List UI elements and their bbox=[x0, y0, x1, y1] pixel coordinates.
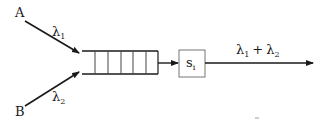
queue-buffer bbox=[82, 51, 158, 74]
queueing-diagram: A λ1 B λ2 si λ1+λ2 bbox=[0, 0, 330, 120]
rate-lambda-2: λ2 bbox=[52, 89, 65, 106]
rate-lambda-1: λ1 bbox=[52, 24, 65, 41]
scan-artifact bbox=[255, 117, 259, 119]
output-rate-label: λ1+λ2 bbox=[236, 42, 280, 59]
source-a-label: A bbox=[14, 5, 25, 20]
source-b-label: B bbox=[15, 104, 25, 119]
